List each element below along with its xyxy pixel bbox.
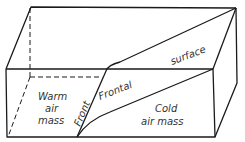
- label-warm-1: Warm: [38, 91, 68, 102]
- labels: Warm air mass Front Frontal surface Cold…: [38, 43, 207, 127]
- label-cold-1: Cold: [155, 103, 178, 114]
- label-warm-2: air: [45, 103, 59, 114]
- front-face: [6, 69, 215, 137]
- frontal-surface-diagram: Warm air mass Front Frontal surface Cold…: [0, 0, 245, 142]
- label-frontal: Frontal: [97, 79, 134, 102]
- right-side-edges: [215, 8, 237, 137]
- top-back-edges: [6, 7, 236, 69]
- label-warm-3: mass: [38, 115, 64, 126]
- hidden-diagonal-edge: [8, 77, 30, 137]
- label-surface: surface: [169, 43, 207, 67]
- label-cold-2: air mass: [141, 116, 184, 127]
